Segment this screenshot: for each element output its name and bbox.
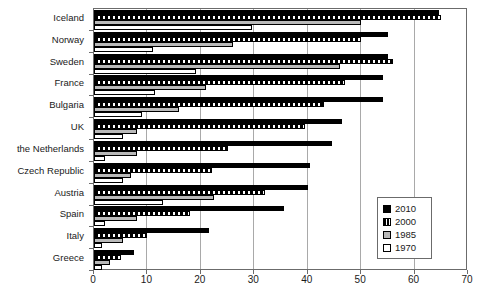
- legend-swatch-1970: [383, 244, 391, 252]
- y-axis-label-czech-republic: Czech Republic: [17, 166, 84, 176]
- x-tick-label-60: 60: [408, 274, 419, 285]
- legend-swatch-1985: [383, 231, 391, 239]
- y-axis-label-france: France: [54, 78, 84, 88]
- y-tick-mark-1: [89, 52, 93, 53]
- y-tick-mark-7: [89, 183, 93, 184]
- bar-norway-1970: [94, 47, 153, 52]
- legend-label-2010: 2010: [395, 203, 416, 214]
- y-tick-mark-2: [89, 74, 93, 75]
- y-tick-mark-8: [89, 205, 93, 206]
- legend-item-1970: 1970: [383, 241, 426, 254]
- y-axis-label-austria: Austria: [54, 188, 84, 198]
- bar-iceland-1970: [94, 25, 252, 30]
- legend-label-1970: 1970: [395, 242, 416, 253]
- x-tick-label-10: 10: [141, 274, 152, 285]
- gridline-x-50: [360, 9, 361, 269]
- x-tick-label-50: 50: [355, 274, 366, 285]
- bar-chart: IcelandNorwaySwedenFranceBulgariaUKthe N…: [0, 0, 484, 302]
- y-tick-mark-4: [89, 117, 93, 118]
- y-tick-mark-6: [89, 161, 93, 162]
- bar-greece-1970: [94, 265, 102, 270]
- y-tick-mark-0: [89, 30, 93, 31]
- bar-france-1970: [94, 90, 155, 95]
- y-axis-label-the-netherlands: the Netherlands: [17, 144, 84, 154]
- y-axis-label-sweden: Sweden: [50, 57, 84, 67]
- legend-label-2000: 2000: [395, 216, 416, 227]
- y-tick-mark-5: [89, 139, 93, 140]
- y-axis-label-greece: Greece: [53, 253, 84, 263]
- legend-item-2010: 2010: [383, 202, 426, 215]
- bar-uk-1970: [94, 134, 123, 139]
- chart-legend: 2010200019851970: [377, 197, 432, 259]
- y-tick-mark-9: [89, 226, 93, 227]
- x-tick-label-20: 20: [194, 274, 205, 285]
- y-tick-mark-11: [89, 270, 93, 271]
- bar-spain-1970: [94, 221, 105, 226]
- bar-sweden-1970: [94, 69, 196, 74]
- y-tick-mark-3: [89, 95, 93, 96]
- x-tick-label-0: 0: [90, 274, 96, 285]
- legend-swatch-2010: [383, 205, 391, 213]
- y-axis-label-uk: UK: [71, 122, 84, 132]
- y-axis-label-italy: Italy: [67, 231, 84, 241]
- y-tick-mark-10: [89, 248, 93, 249]
- y-axis-label-spain: Spain: [60, 209, 84, 219]
- x-tick-label-40: 40: [301, 274, 312, 285]
- y-axis-label-iceland: Iceland: [53, 13, 84, 23]
- x-tick-label-70: 70: [461, 274, 472, 285]
- legend-swatch-2000: [383, 218, 391, 226]
- gridline-x-30: [253, 9, 254, 269]
- legend-item-2000: 2000: [383, 215, 426, 228]
- gridline-x-40: [307, 9, 308, 269]
- bar-bulgaria-1970: [94, 112, 142, 117]
- bar-the-netherlands-1970: [94, 156, 105, 161]
- bar-italy-1970: [94, 243, 102, 248]
- y-axis-category-labels: IcelandNorwaySwedenFranceBulgariaUKthe N…: [0, 8, 88, 270]
- x-tick-label-30: 30: [248, 274, 259, 285]
- bar-austria-1970: [94, 200, 163, 205]
- x-axis-tick-labels: 010203040506070: [93, 274, 467, 290]
- y-axis-label-bulgaria: Bulgaria: [49, 100, 84, 110]
- legend-item-1985: 1985: [383, 228, 426, 241]
- bar-czech-republic-1970: [94, 178, 123, 183]
- legend-label-1985: 1985: [395, 229, 416, 240]
- y-axis-label-norway: Norway: [52, 35, 84, 45]
